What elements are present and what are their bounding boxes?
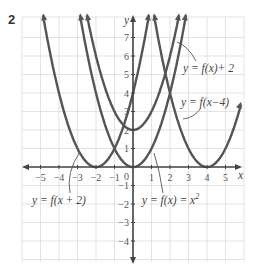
- svg-text:2: 2: [168, 172, 173, 183]
- svg-text:6: 6: [124, 51, 129, 62]
- svg-text:1: 1: [124, 143, 129, 154]
- svg-text:−2: −2: [118, 199, 129, 210]
- svg-text:−3: −3: [72, 172, 83, 183]
- svg-text:y = f(x−4): y = f(x−4): [180, 96, 229, 109]
- svg-text:3: 3: [186, 172, 191, 183]
- svg-text:−3: −3: [118, 217, 129, 228]
- svg-text:x: x: [237, 169, 244, 181]
- arrow-up-icon: [130, 15, 136, 22]
- arrow-down-icon: [130, 257, 136, 264]
- svg-text:−1: −1: [118, 180, 129, 191]
- svg-text:y: y: [123, 14, 130, 27]
- svg-text:5: 5: [223, 172, 228, 183]
- svg-text:−4: −4: [118, 236, 129, 247]
- parabola-curves: [40, 13, 244, 167]
- svg-text:y = f(x)+ 2: y = f(x)+ 2: [182, 62, 234, 75]
- svg-text:y = f(x) = x2: y = f(x) = x2: [141, 192, 199, 207]
- svg-text:3: 3: [124, 106, 129, 117]
- svg-text:−4: −4: [54, 172, 65, 183]
- svg-text:−2: −2: [91, 172, 102, 183]
- axes: [22, 15, 242, 264]
- arrow-left-icon: [22, 164, 29, 170]
- svg-text:5: 5: [124, 69, 129, 80]
- svg-text:7: 7: [124, 32, 129, 43]
- svg-text:4: 4: [205, 172, 210, 183]
- svg-text:−5: −5: [35, 172, 46, 183]
- arrow-icon: [236, 101, 244, 110]
- svg-text:y = f(x + 2): y = f(x + 2): [31, 194, 86, 207]
- svg-text:1: 1: [149, 172, 154, 183]
- graph-plot: −5−4−3−2−1012345−4−3−2−11234567yx y = f(…: [0, 0, 259, 279]
- curve-2: [154, 15, 241, 167]
- svg-text:2: 2: [124, 125, 129, 136]
- svg-text:4: 4: [124, 88, 129, 99]
